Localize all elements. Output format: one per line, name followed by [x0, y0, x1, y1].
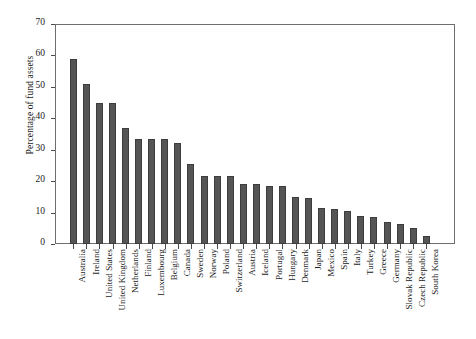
y-axis-tick-label: 20: [36, 174, 46, 184]
x-axis-labels: AustraliaIrelandUnited StatesUnited King…: [55, 249, 455, 339]
bar: [305, 198, 312, 244]
bar: [344, 211, 351, 244]
x-axis-label: Japan: [302, 249, 315, 339]
x-axis-label: Finland: [132, 249, 145, 339]
bar-slot: [407, 24, 420, 244]
x-axis-label: Australia: [67, 249, 80, 339]
bar: [201, 176, 208, 244]
x-axis-label: Greece: [367, 249, 380, 339]
x-axis-label: Switzerland: [224, 249, 237, 339]
x-axis-label: Slovak Republic: [394, 249, 407, 339]
x-axis-label: Luxembourg: [145, 249, 158, 339]
x-axis-label: Italy: [341, 249, 354, 339]
bar-slot: [276, 24, 289, 244]
x-axis-label: Norway: [197, 249, 210, 339]
bar: [318, 208, 325, 244]
bar-chart: Percentage of fund assets 01020304050607…: [0, 0, 476, 339]
bar: [214, 176, 221, 244]
bar: [279, 186, 286, 244]
bar-slot: [237, 24, 250, 244]
x-axis-label: Czech Republic: [407, 249, 420, 339]
bar: [148, 139, 155, 244]
x-axis-label: Germany: [380, 249, 393, 339]
x-axis-label: Ireland: [80, 249, 93, 339]
bar: [423, 236, 430, 244]
bar: [135, 139, 142, 244]
x-axis-label: Poland: [211, 249, 224, 339]
x-axis-label: Netherlands: [119, 249, 132, 339]
bar-slot: [302, 24, 315, 244]
y-axis-tick-label: 60: [36, 48, 46, 58]
x-axis-label: Denmark: [289, 249, 302, 339]
bar: [161, 139, 168, 244]
x-axis-label: Portugal: [263, 249, 276, 339]
bar-slot: [80, 24, 93, 244]
bar-slot: [171, 24, 184, 244]
bar: [384, 222, 391, 244]
y-axis-tick-label: 10: [36, 206, 46, 216]
bar: [70, 59, 77, 244]
y-axis-tick-mark: [51, 244, 55, 245]
y-axis-tick-label: 50: [36, 80, 46, 90]
x-axis-label: South Korea: [420, 249, 433, 339]
y-axis-tick-label: 0: [40, 237, 45, 247]
x-axis-label: Hungary: [276, 249, 289, 339]
bar: [397, 224, 404, 244]
bar-slot: [380, 24, 393, 244]
bar-slot: [224, 24, 237, 244]
bar: [370, 217, 377, 244]
bar: [410, 228, 417, 244]
bar-slot: [158, 24, 171, 244]
x-axis-label: Belgium: [158, 249, 171, 339]
bar-slot: [106, 24, 119, 244]
bar: [83, 84, 90, 244]
y-axis-tick-label: 40: [36, 111, 46, 121]
bar-slot: [67, 24, 80, 244]
bar-slot: [250, 24, 263, 244]
bar-slot: [341, 24, 354, 244]
y-axis-tick-label: 70: [36, 17, 46, 27]
bar: [96, 103, 103, 244]
x-axis-label: United States: [93, 249, 106, 339]
bar-slot: [420, 24, 433, 244]
bar-slot: [289, 24, 302, 244]
y-axis-title: Percentage of fund assets: [25, 10, 35, 200]
x-axis-label: Canada: [171, 249, 184, 339]
bar-slot: [315, 24, 328, 244]
bar: [240, 184, 247, 244]
x-axis-label: Austria: [237, 249, 250, 339]
x-axis-label: Mexico: [315, 249, 328, 339]
bar: [331, 209, 338, 244]
bar-slot: [184, 24, 197, 244]
bar-slot: [394, 24, 407, 244]
x-axis-label: United Kingdom: [106, 249, 119, 339]
bar-slot: [93, 24, 106, 244]
x-axis-label-text: South Korea: [430, 249, 440, 295]
bar-slot: [367, 24, 380, 244]
bar: [109, 103, 116, 244]
bar-slot: [197, 24, 210, 244]
bar-slot: [119, 24, 132, 244]
x-axis-label: Iceland: [250, 249, 263, 339]
bar-slot: [328, 24, 341, 244]
bar: [266, 186, 273, 244]
bar: [357, 216, 364, 244]
y-axis-tick-label: 30: [36, 143, 46, 153]
bar-slot: [145, 24, 158, 244]
bar-slot: [263, 24, 276, 244]
bar: [187, 164, 194, 244]
bar-slot: [132, 24, 145, 244]
bars-container: [55, 24, 455, 244]
x-axis-label: Turkey: [354, 249, 367, 339]
bar: [122, 128, 129, 244]
bar: [292, 197, 299, 244]
bar: [174, 143, 181, 245]
x-axis-label: Sweden: [184, 249, 197, 339]
bar: [253, 184, 260, 244]
bar-slot: [354, 24, 367, 244]
bar: [227, 176, 234, 244]
x-axis-label: Spain: [328, 249, 341, 339]
bar-slot: [211, 24, 224, 244]
